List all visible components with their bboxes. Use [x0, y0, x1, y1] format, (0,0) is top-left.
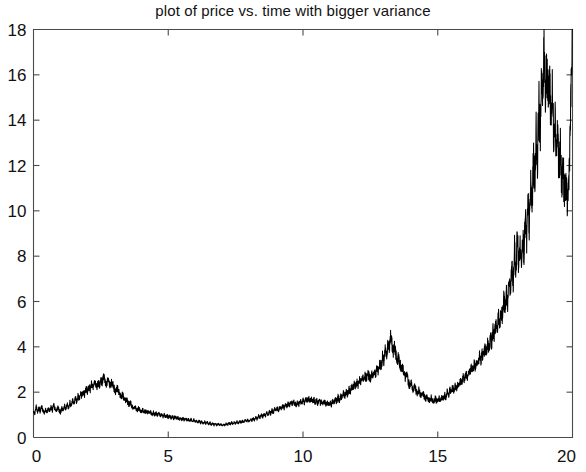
- chart-plot-area: 024681012141618 05101520: [0, 0, 586, 472]
- x-tick-label: 20: [557, 447, 576, 466]
- x-tick-label: 15: [428, 447, 447, 466]
- chart-figure: plot of price vs. time with bigger varia…: [0, 0, 586, 472]
- y-tick-label: 4: [17, 338, 26, 357]
- y-tick-label: 0: [17, 429, 26, 448]
- data-series-line: [34, 30, 573, 426]
- x-tick-label: 0: [32, 447, 41, 466]
- y-tick-label: 8: [17, 247, 26, 266]
- y-tick-label: 18: [8, 21, 27, 40]
- y-tick-label: 2: [17, 383, 26, 402]
- y-axis-tick-labels: 024681012141618: [8, 21, 27, 448]
- x-tick-label: 5: [164, 447, 173, 466]
- y-tick-label: 10: [8, 202, 27, 221]
- x-tick-label: 10: [294, 447, 313, 466]
- axis-tick-marks: [34, 30, 573, 438]
- y-tick-label: 12: [8, 157, 27, 176]
- y-tick-label: 6: [17, 293, 26, 312]
- y-tick-label: 14: [8, 111, 27, 130]
- axis-frame: [34, 30, 573, 438]
- x-axis-tick-labels: 05101520: [32, 447, 576, 466]
- y-tick-label: 16: [8, 66, 27, 85]
